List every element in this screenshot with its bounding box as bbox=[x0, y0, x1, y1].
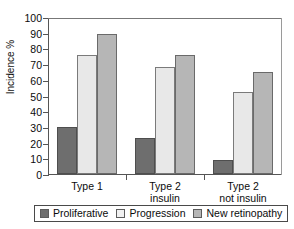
legend-item[interactable]: New retinopathy bbox=[193, 208, 282, 219]
legend-label: New retinopathy bbox=[206, 208, 282, 219]
legend-swatch-icon bbox=[116, 209, 125, 218]
y-axis-tick-label: 40 bbox=[2, 107, 42, 117]
chart-legend: ProliferativeProgressionNew retinopathy bbox=[34, 205, 288, 222]
y-axis-tick-label: 0 bbox=[2, 170, 42, 180]
x-axis-tick bbox=[204, 175, 205, 180]
y-axis-tick-label: 50 bbox=[2, 92, 42, 102]
legend-swatch-icon bbox=[40, 209, 49, 218]
x-axis-category-label: Type 2 not insulin bbox=[204, 181, 282, 204]
y-axis-tick-label: 90 bbox=[2, 29, 42, 39]
bar bbox=[233, 92, 253, 174]
bar bbox=[135, 138, 155, 174]
plot-area bbox=[48, 18, 282, 175]
chart-figure: Incidence % 0102030405060708090100 Type … bbox=[0, 0, 294, 229]
legend-label: Proliferative bbox=[53, 208, 108, 219]
legend-item[interactable]: Progression bbox=[116, 208, 185, 219]
bar bbox=[253, 72, 273, 174]
bar bbox=[175, 55, 195, 174]
plot-right-rule bbox=[281, 18, 282, 175]
bar bbox=[57, 127, 77, 174]
bar bbox=[155, 67, 175, 174]
legend-swatch-icon bbox=[193, 209, 202, 218]
y-axis-tick-label: 80 bbox=[2, 44, 42, 54]
y-axis-tick-label: 100 bbox=[2, 13, 42, 23]
legend-label: Progression bbox=[129, 208, 185, 219]
plot-top-rule bbox=[48, 18, 282, 19]
y-axis-tick-label: 20 bbox=[2, 139, 42, 149]
bar bbox=[97, 34, 117, 174]
y-axis-tick-label: 70 bbox=[2, 60, 42, 70]
legend-item[interactable]: Proliferative bbox=[40, 208, 108, 219]
y-axis-tick-label: 30 bbox=[2, 123, 42, 133]
x-axis-category-label: Type 2 insulin bbox=[126, 181, 204, 204]
x-axis-category-label: Type 1 bbox=[48, 181, 126, 193]
y-axis-tick bbox=[43, 175, 49, 176]
y-axis-tick-label: 60 bbox=[2, 76, 42, 86]
bar bbox=[213, 160, 233, 174]
y-axis-tick-label: 10 bbox=[2, 154, 42, 164]
bar bbox=[77, 55, 97, 174]
x-axis-tick bbox=[126, 175, 127, 180]
